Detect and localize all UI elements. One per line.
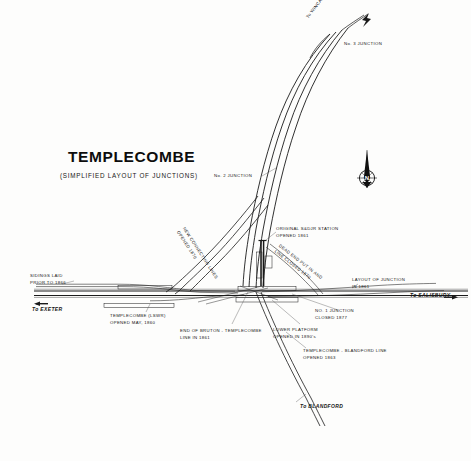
label-original-sdjr-station: ORIGINAL S&DJR STATION OPENED 1861 <box>276 226 339 239</box>
direction-arrows <box>34 295 458 306</box>
label-no1-junction: NO. 1 JUNCTION CLOSED 1877 <box>315 308 354 321</box>
label-templecombe-blandford: TEMPLECOMBE - BLANDFORD LINE OPENED 1863 <box>303 348 387 361</box>
no3-junction-tracks <box>310 14 368 58</box>
north-compass-rose: N <box>348 148 388 194</box>
label-no2-junction: No. 2 JUNCTION <box>214 173 252 180</box>
label-no3-junction: No. 3 JUNCTION <box>344 41 382 48</box>
label-to-salisbury: To SALISBURY <box>410 292 450 300</box>
label-layout-of-junction: LAYOUT OF JUNCTION IN 1861 <box>352 277 405 290</box>
original-sdjr-station-stub <box>257 240 273 286</box>
label-templecombe-lswr: TEMPLECOMBE (LSWR) OPENED MAY, 1860 <box>110 313 166 326</box>
page-subtitle: (SIMPLIFIED LAYOUT OF JUNCTIONS) <box>60 172 198 179</box>
sdjr-main-curve <box>243 28 348 288</box>
label-end-of-bruton: END OF BRUTON - TEMPLECOMBE LINE IN 1861 <box>180 328 262 341</box>
railway-junction-diagram <box>0 0 471 461</box>
label-to-blandford: To BLANDFORD <box>300 403 343 411</box>
label-sidings-laid: SIDINGS LAID PRIOR TO 1866 <box>30 273 66 286</box>
compass-north-letter: N <box>365 175 369 181</box>
diagram-page: TEMPLECOMBE (SIMPLIFIED LAYOUT OF JUNCTI… <box>0 0 471 461</box>
page-title: TEMPLECOMBE <box>68 148 195 166</box>
label-to-exeter: To EXETER <box>32 306 62 314</box>
new-connecting-lines <box>166 196 268 294</box>
label-lower-platform: LOWER PLATFORM OPENED IN 1890's <box>273 327 318 340</box>
